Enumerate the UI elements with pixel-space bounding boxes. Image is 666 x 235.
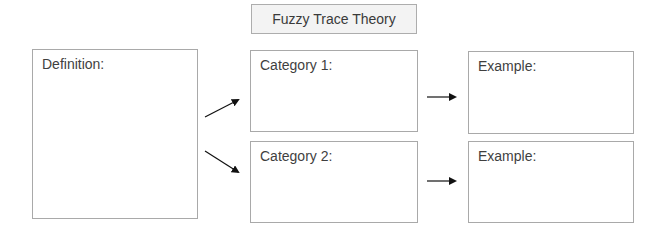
category-2-box: Category 2:	[250, 141, 418, 223]
example-2-label: Example:	[478, 148, 536, 164]
definition-label: Definition:	[42, 56, 104, 72]
category-1-label: Category 1:	[260, 57, 332, 73]
arrow-definition-to-category-1-icon	[205, 100, 238, 117]
category-1-box: Category 1:	[250, 50, 418, 132]
arrow-definition-to-category-2-icon	[205, 151, 238, 172]
definition-box: Definition:	[32, 49, 198, 219]
diagram-title: Fuzzy Trace Theory	[272, 11, 395, 27]
example-1-box: Example:	[468, 51, 634, 134]
category-2-label: Category 2:	[260, 148, 332, 164]
example-1-label: Example:	[478, 58, 536, 74]
diagram-title-box: Fuzzy Trace Theory	[251, 4, 417, 34]
example-2-box: Example:	[468, 141, 634, 223]
